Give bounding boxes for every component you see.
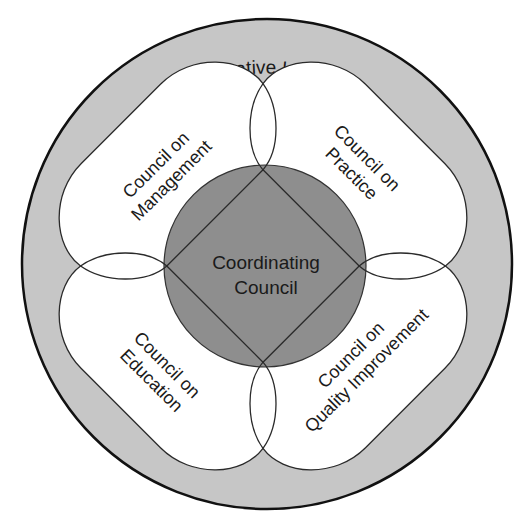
center-label-line1: Coordinating — [212, 252, 320, 273]
center-label-line2: Council — [234, 277, 297, 298]
diagram-canvas: Administrative Integration Coordinating … — [0, 0, 529, 516]
